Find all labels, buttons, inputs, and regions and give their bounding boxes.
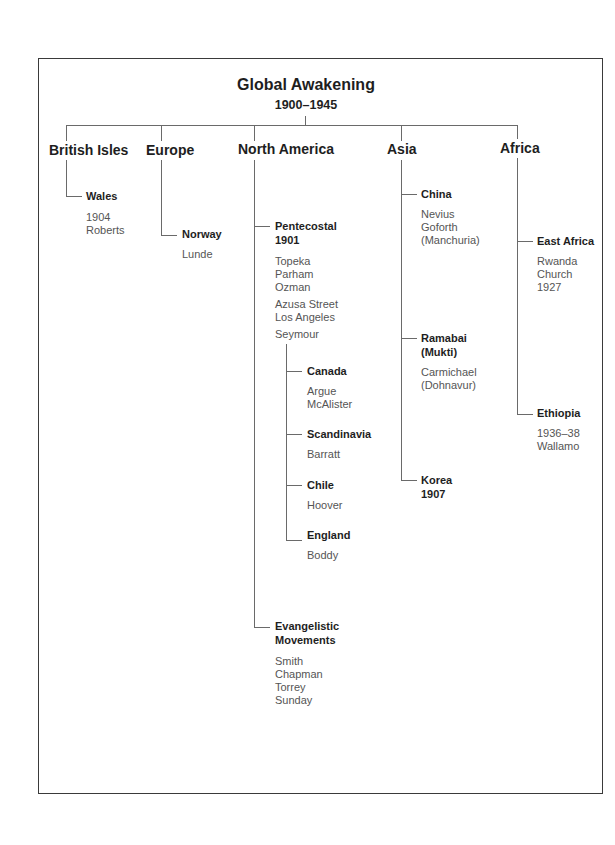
node-china: China: [421, 187, 452, 202]
node-canada: Canada: [307, 364, 347, 379]
connector-british-isles: [66, 125, 67, 141]
detail-text: Roberts: [86, 223, 125, 238]
region-bar: [66, 125, 518, 126]
detail-text: Seymour: [275, 327, 319, 342]
branch-line-pentecostal: [286, 344, 287, 540]
detail-text: Boddy: [307, 548, 338, 563]
tick-china: [401, 194, 417, 195]
region-europe: Europe: [146, 142, 194, 158]
detail-text: 1927: [537, 280, 561, 295]
node-east-africa: East Africa: [537, 234, 594, 249]
detail-text: Los Angeles: [275, 310, 335, 325]
detail-text: McAlister: [307, 397, 352, 412]
diagram-frame: [38, 58, 603, 794]
connector-asia: [401, 125, 402, 141]
tick-evangelistic: [254, 627, 270, 628]
tick-canada: [286, 371, 302, 372]
node-ramabai-line2: (Mukti): [421, 345, 457, 360]
region-africa: Africa: [500, 140, 540, 156]
connector-north-america: [254, 125, 255, 141]
node-norway: Norway: [182, 227, 222, 242]
region-asia: Asia: [387, 141, 417, 157]
detail-text: Ozman: [275, 280, 310, 295]
region-british-isles: British Isles: [49, 142, 128, 158]
tick-korea: [401, 480, 417, 481]
branch-line-europe: [161, 160, 162, 235]
diagram-subtitle: 1900–1945: [206, 98, 406, 112]
node-chile: Chile: [307, 478, 334, 493]
branch-line-africa: [517, 158, 518, 414]
node-wales: Wales: [86, 189, 117, 204]
detail-text: Sunday: [275, 693, 312, 708]
detail-text: Wallamo: [537, 439, 579, 454]
diagram-title: Global Awakening: [206, 76, 406, 94]
node-korea-year: 1907: [421, 487, 445, 502]
detail-text: (Dohnavur): [421, 378, 476, 393]
tick-east-africa: [517, 241, 533, 242]
tick-wales: [66, 196, 82, 197]
tick-ramabai: [401, 338, 417, 339]
connector-africa: [517, 125, 518, 139]
node-pentecostal: Pentecostal: [275, 219, 337, 234]
node-scandinavia: Scandinavia: [307, 427, 371, 442]
node-pentecostal-year: 1901: [275, 233, 299, 248]
node-england: England: [307, 528, 350, 543]
tick-chile: [286, 485, 302, 486]
tick-england: [286, 540, 302, 541]
tick-pentecostal: [254, 226, 270, 227]
detail-text: Barratt: [307, 447, 340, 462]
region-north-america: North America: [238, 141, 334, 157]
tick-scandinavia: [286, 434, 302, 435]
branch-line-asia: [401, 160, 402, 480]
branch-line-british-isles: [66, 160, 67, 196]
detail-text: Lunde: [182, 247, 213, 262]
node-ramabai: Ramabai: [421, 331, 467, 346]
branch-line-north-america: [254, 160, 255, 627]
node-evangelistic-movements: Evangelistic: [275, 619, 339, 634]
connector-europe: [161, 125, 162, 141]
tick-ethiopia: [517, 414, 533, 415]
node-evangelistic-movements-line2: Movements: [275, 633, 336, 648]
detail-text: Hoover: [307, 498, 342, 513]
node-korea: Korea: [421, 473, 452, 488]
detail-text: (Manchuria): [421, 233, 480, 248]
tick-norway: [161, 235, 177, 236]
node-ethiopia: Ethiopia: [537, 406, 580, 421]
